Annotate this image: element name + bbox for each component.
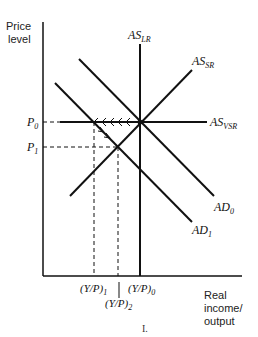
- as-sr-label: ASSR: [191, 54, 214, 70]
- figure-caption: I.: [142, 323, 148, 334]
- x-axis-label-2: income/: [204, 302, 243, 314]
- y-axis-label-2: level: [8, 33, 31, 45]
- p1-label: P1: [26, 140, 38, 156]
- x-axis-label: Real: [204, 289, 227, 301]
- as-lr-label: ASLR: [127, 28, 151, 44]
- y-axis-label: Price: [6, 20, 31, 32]
- as-vsr-label: ASVSR: [209, 115, 237, 131]
- x-axis-label-3: output: [204, 315, 235, 327]
- yp2-label: (Y/P)2: [105, 297, 132, 312]
- yp0-label: (Y/P)0: [128, 282, 155, 297]
- equilibrium-point: [138, 120, 143, 125]
- as-sr-curve: [70, 70, 192, 196]
- yp1-label: (Y/P)1: [80, 282, 107, 297]
- ad1-label: AD1: [191, 223, 212, 239]
- ad0-label: AD0: [213, 200, 234, 216]
- diagram: Price level Real income/ output ASLR ASS…: [0, 0, 258, 337]
- p0-label: P0: [26, 115, 38, 131]
